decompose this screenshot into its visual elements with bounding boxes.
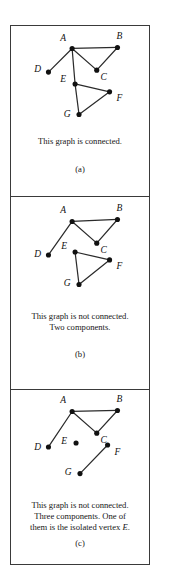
graph-vertex-e <box>73 440 78 445</box>
caption-line: This graph is not connected. <box>31 311 128 321</box>
vertex-label-f: F <box>117 262 123 272</box>
graph-edge <box>75 252 79 285</box>
sublabel-c: (c) <box>11 538 149 548</box>
graph-edge <box>72 219 117 221</box>
graph-vertex-b <box>115 45 120 50</box>
caption-period: . <box>128 522 130 532</box>
panel-c: ABCDEFG This graph is not connected.Thre… <box>11 390 149 563</box>
graph-edge <box>75 84 79 115</box>
graph-vertex-d <box>46 252 51 257</box>
graph-b: ABCDEFG <box>11 197 149 309</box>
vertex-label-g: G <box>64 279 71 289</box>
graph-vertex-a <box>70 46 75 51</box>
vertex-label-f: F <box>115 448 121 458</box>
graph-vertex-d <box>46 444 51 449</box>
graph-edge <box>79 92 110 115</box>
graph-a-svg <box>11 26 149 134</box>
vertex-label-c: C <box>100 436 106 446</box>
caption-b: This graph is not connected.Two componen… <box>11 311 149 333</box>
graph-c: ABCDEFG <box>11 390 149 498</box>
caption-line: them is the isolated vertex <box>30 522 120 532</box>
vertex-label-f: F <box>117 94 123 104</box>
vertex-label-g: G <box>64 110 71 120</box>
vertex-label-d: D <box>34 65 41 75</box>
graph-vertex-b <box>115 408 120 413</box>
graph-vertex-c <box>94 431 99 436</box>
caption-line: Three components. One of <box>34 511 126 521</box>
vertex-label-a: A <box>60 34 66 44</box>
panel-b: ABCDEFG This graph is not connected.Two … <box>11 197 149 390</box>
graph-vertex-e <box>73 81 78 86</box>
graph-edge <box>79 260 110 285</box>
caption-c: This graph is not connected.Three compon… <box>11 500 149 534</box>
caption-a: This graph is connected. <box>11 136 149 147</box>
vertex-label-a: A <box>60 396 66 406</box>
caption-line: This graph is connected. <box>38 136 122 146</box>
vertex-label-e: E <box>61 242 67 252</box>
graph-c-svg <box>11 390 149 498</box>
graph-vertex-b <box>115 217 120 222</box>
graph-edge <box>72 47 117 48</box>
graph-vertex-e <box>73 249 78 254</box>
graph-vertex-g <box>76 112 81 117</box>
sublabel-a: (a) <box>11 164 149 174</box>
vertex-label-a: A <box>60 206 66 216</box>
graph-edge <box>75 84 110 92</box>
graph-edge <box>48 411 72 446</box>
graph-edge <box>97 219 118 243</box>
vertex-label-e: E <box>61 437 67 447</box>
graph-vertex-g <box>77 471 82 476</box>
graph-a: ABCDEFG <box>11 26 149 134</box>
sublabel-b: (b) <box>11 349 149 359</box>
graph-vertex-a <box>70 409 75 414</box>
graph-edge <box>97 410 118 433</box>
graph-vertex-c <box>94 241 99 246</box>
graph-edge <box>72 221 97 243</box>
graph-edge <box>48 221 72 255</box>
vertex-label-b: B <box>117 32 123 42</box>
graph-b-svg <box>11 197 149 309</box>
graph-edge <box>72 410 117 411</box>
panel-a: ABCDEFG This graph is connected. (a) <box>11 26 149 197</box>
graph-vertex-d <box>46 70 51 75</box>
graph-vertex-f <box>107 89 112 94</box>
vertex-label-c: C <box>100 73 106 83</box>
vertex-label-e: E <box>60 75 66 85</box>
graph-vertex-g <box>76 282 81 287</box>
graph-edge <box>80 445 108 474</box>
graph-vertex-c <box>94 68 99 73</box>
graph-edge <box>72 48 75 83</box>
vertex-label-d: D <box>34 443 41 453</box>
caption-line: Two components. <box>50 322 111 332</box>
graph-vertex-a <box>70 219 75 224</box>
vertex-label-d: D <box>34 250 41 260</box>
vertex-label-b: B <box>117 395 123 405</box>
vertex-label-c: C <box>100 246 106 256</box>
caption-line: This graph is not connected. <box>31 500 128 510</box>
graph-vertex-f <box>107 257 112 262</box>
graph-edge <box>72 411 97 433</box>
graph-edge <box>72 48 97 70</box>
vertex-label-g: G <box>65 468 72 478</box>
graph-edge <box>97 47 118 70</box>
vertex-label-b: B <box>117 204 123 214</box>
figure-frame: ABCDEFG This graph is connected. (a) ABC… <box>10 25 150 565</box>
graph-edge <box>48 48 72 72</box>
